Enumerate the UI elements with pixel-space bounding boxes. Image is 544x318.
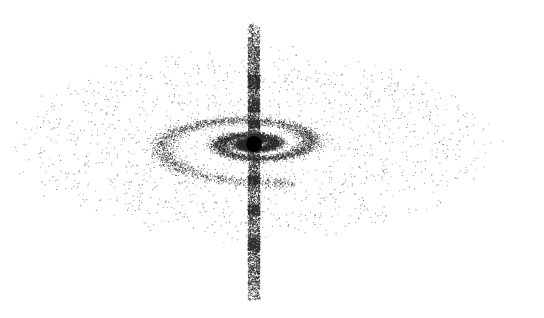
galaxy-illustration: stippled spiral galaxy with central blac… <box>0 0 544 318</box>
stippled-galaxy-canvas <box>0 0 544 318</box>
black-hole <box>246 136 262 152</box>
